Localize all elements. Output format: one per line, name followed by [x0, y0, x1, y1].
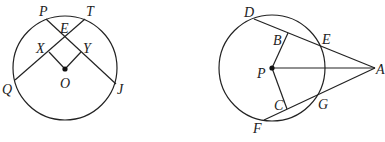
label-e: E	[59, 21, 69, 36]
left-figure: P T E X Y O Q J	[2, 4, 124, 120]
right-figure: D B E P A C G F	[219, 5, 385, 136]
segment-ox	[49, 52, 65, 69]
label-e2: E	[321, 32, 331, 47]
chord-tq	[15, 19, 85, 80]
label-q: Q	[2, 82, 12, 97]
label-c: C	[274, 98, 284, 113]
chord-pj	[46, 19, 116, 84]
label-y: Y	[83, 41, 93, 56]
label-b: B	[273, 33, 282, 48]
center-dot-o	[62, 66, 67, 71]
label-d: D	[243, 5, 254, 20]
segment-oy	[65, 52, 81, 69]
label-g: G	[318, 97, 328, 112]
label-o: O	[60, 76, 70, 91]
label-x: X	[35, 41, 45, 56]
label-f: F	[252, 121, 262, 136]
label-j: J	[117, 82, 124, 97]
label-p: P	[38, 4, 48, 19]
label-a: A	[375, 62, 385, 77]
center-dot-p	[269, 65, 274, 70]
label-p2: P	[256, 66, 266, 81]
label-t: T	[86, 4, 95, 19]
geometry-diagram: P T E X Y O Q J D B E P A C G F	[0, 0, 385, 142]
